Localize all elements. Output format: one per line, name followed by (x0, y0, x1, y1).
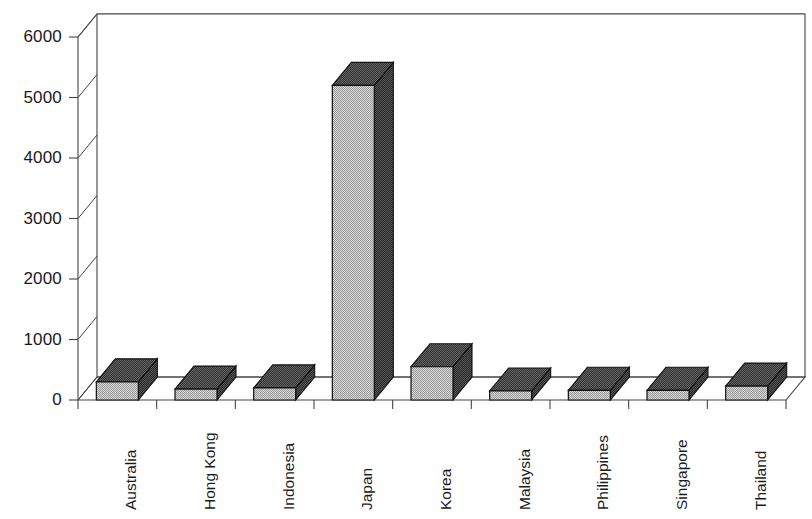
x-axis-tick-label: Japan (359, 468, 375, 510)
chart-canvas (0, 0, 812, 519)
x-axis-tick-label: Singapore (674, 439, 690, 510)
bar-japan (332, 62, 393, 400)
y-axis-tick-label: 0 (0, 391, 62, 408)
bar-chart: 0100020003000400050006000 AustraliaHong … (0, 0, 812, 519)
x-axis-tick-label: Philippines (595, 435, 611, 510)
plot-walls (78, 14, 805, 400)
y-axis-tick-label: 6000 (0, 28, 62, 45)
y-axis-tick-label: 2000 (0, 270, 62, 287)
y-axis-tick-label: 3000 (0, 210, 62, 227)
x-axis-tick-label: Malaysia (517, 449, 533, 510)
x-axis-tick-label: Indonesia (281, 443, 297, 510)
y-axis-tick-label: 5000 (0, 89, 62, 106)
y-axis-tick-label: 1000 (0, 331, 62, 348)
x-axis-tick-label: Hong Kong (202, 432, 218, 510)
x-axis-tick-label: Korea (438, 469, 454, 510)
x-axis-tick-label: Thailand (753, 451, 769, 510)
y-axis-tick-label: 4000 (0, 149, 62, 166)
x-axis-tick-label: Australia (123, 450, 139, 510)
